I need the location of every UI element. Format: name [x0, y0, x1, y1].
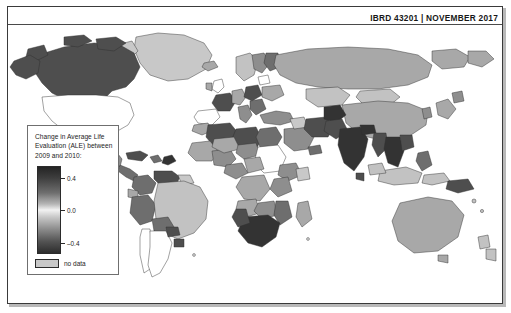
tick-mark	[61, 178, 65, 179]
legend-tick-label: 0.4	[67, 175, 76, 182]
legend-tick-high: 0.4	[61, 174, 76, 182]
legend-tick-label: 0.0	[67, 207, 76, 214]
legend-colorbar: 0.4 0.0 –0.4	[35, 166, 112, 254]
legend-tick-mid: 0.0	[61, 206, 76, 214]
world-map-figure: IBRD 43201 | NOVEMBER 2017 .c { stroke:#…	[0, 0, 511, 313]
nodata-label: no data	[64, 260, 86, 267]
credit-line: IBRD 43201 | NOVEMBER 2017	[370, 10, 498, 25]
legend-tick-label: –0.4	[67, 240, 79, 247]
legend-nodata-entry: no data	[35, 259, 86, 268]
tick-mark	[61, 243, 65, 244]
legend-title: Change in Average Life Evaluation (ALE) …	[35, 132, 115, 160]
figure-frame: IBRD 43201 | NOVEMBER 2017 .c { stroke:#…	[7, 6, 503, 304]
legend-tick-low: –0.4	[61, 239, 79, 247]
credit-text: IBRD 43201 | NOVEMBER 2017	[370, 13, 498, 23]
nodata-swatch	[35, 259, 59, 268]
legend-gradient-bar	[37, 166, 61, 254]
map-legend: Change in Average Life Evaluation (ALE) …	[27, 125, 119, 275]
tick-mark	[61, 210, 65, 211]
